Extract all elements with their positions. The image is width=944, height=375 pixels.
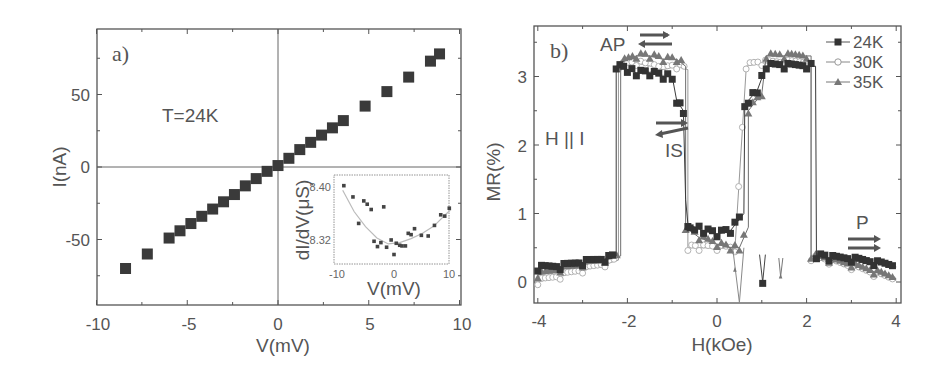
a-xtick-label: 5 bbox=[365, 315, 374, 334]
p-arrows-icon bbox=[848, 235, 881, 252]
inset-x-axis-title: V(mV) bbox=[367, 278, 421, 299]
inset-y-axis-title: dI/dV(μS) bbox=[292, 180, 313, 261]
svg-text:35K: 35K bbox=[853, 73, 884, 92]
a-ytick-label: 0 bbox=[81, 158, 90, 177]
a-xtick-label: 0 bbox=[273, 315, 282, 334]
inset-frame bbox=[334, 175, 449, 264]
dip-spikes bbox=[733, 248, 783, 303]
a-xtick-label: -5 bbox=[181, 315, 196, 334]
b-xtick-label: -4 bbox=[531, 312, 546, 331]
legend-item-30k: 30K bbox=[826, 53, 884, 72]
b-ytick-label: 0 bbox=[518, 273, 527, 292]
legend-item-24k: 24K bbox=[826, 33, 884, 52]
h-parallel-i-annotation: H || I bbox=[545, 128, 584, 149]
b-xtick-label: 2 bbox=[802, 312, 811, 331]
legend-item-35k: 35K bbox=[826, 73, 884, 92]
legend: 24K 30K 35K bbox=[826, 33, 884, 92]
panel-b: b) AP IS P H || I 24K bbox=[483, 26, 901, 355]
figure: a) T=24K -10 -5 0 5 10 50 0 -50 V(mV) I(… bbox=[0, 0, 944, 375]
b-xtick-label: -2 bbox=[621, 312, 636, 331]
a-ytick-label: 50 bbox=[71, 86, 90, 105]
inset-chart: -10 0 10 8.40 8.32 V(mV) dI/dV(μS) bbox=[292, 175, 455, 299]
b-x-axis-title: H(kOe) bbox=[691, 334, 752, 355]
a-xtick-label: 10 bbox=[453, 315, 472, 334]
b-ytick-label: 2 bbox=[518, 137, 527, 156]
is-annotation: IS bbox=[665, 140, 683, 161]
panel-b-series bbox=[534, 49, 897, 302]
ap-arrows-icon bbox=[638, 31, 672, 48]
inset-xtick-label: -10 bbox=[329, 268, 345, 280]
a-x-axis-title: V(mV) bbox=[256, 335, 310, 356]
p-annotation: P bbox=[856, 212, 869, 233]
svg-text:24K: 24K bbox=[853, 33, 884, 52]
ap-annotation: AP bbox=[600, 34, 625, 55]
is-arrows-icon bbox=[655, 119, 688, 138]
temperature-annotation: T=24K bbox=[162, 105, 219, 126]
b-xtick-label: 4 bbox=[891, 312, 900, 331]
panel-b-label: b) bbox=[550, 38, 568, 63]
b-xtick-label: 0 bbox=[712, 312, 721, 331]
a-xtick-label: -10 bbox=[86, 315, 111, 334]
b-y-axis-title: MR(%) bbox=[483, 142, 504, 201]
b-ytick-label: 1 bbox=[518, 205, 527, 224]
a-y-axis-title: I(nA) bbox=[49, 146, 70, 187]
svg-text:30K: 30K bbox=[853, 53, 884, 72]
panel-a: a) T=24K -10 -5 0 5 10 50 0 -50 V(mV) I(… bbox=[49, 29, 471, 356]
panel-a-label: a) bbox=[112, 41, 129, 66]
b-ytick-label: 3 bbox=[518, 68, 527, 87]
series-30k bbox=[535, 57, 896, 288]
inset-xtick-label: 10 bbox=[443, 268, 455, 280]
a-ytick-label: -50 bbox=[65, 231, 90, 250]
